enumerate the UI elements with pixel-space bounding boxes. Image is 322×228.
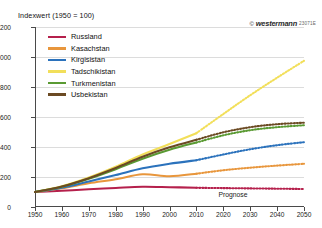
x-tick-label: 1960 [55, 211, 70, 218]
legend-color-swatch [48, 93, 66, 96]
series-line-forecast [196, 61, 304, 133]
legend-item-label: Kirgisistan [71, 55, 105, 64]
prognose-label: Prognose [218, 191, 247, 198]
x-tick-label: 1950 [28, 211, 43, 218]
y-tick-label: 400 [0, 144, 11, 151]
legend-color-swatch [48, 82, 66, 85]
y-tick-label: 800 [0, 84, 11, 91]
chart-figure: Indexwert (1950 = 100) © westermann 2307… [0, 0, 322, 228]
chart-axis-title: Indexwert (1950 = 100) [18, 11, 94, 20]
x-tick-label: 2050 [297, 211, 312, 218]
legend-item[interactable]: Turkmenistan [48, 77, 116, 89]
legend-item-label: Kasachstan [71, 44, 110, 53]
legend-item[interactable]: Kirgisistan [48, 54, 116, 66]
y-tick-label: 0 [7, 204, 11, 211]
y-tick-label: 600 [0, 114, 11, 121]
x-tick-label: 2020 [216, 211, 231, 218]
x-tick-label: 2030 [243, 211, 258, 218]
legend-item-label: Usbekistan [71, 90, 108, 99]
x-tick-label: 2040 [270, 211, 285, 218]
legend-item-label: Russland [71, 32, 102, 41]
x-tick-label: 2000 [162, 211, 177, 218]
legend-color-swatch [48, 59, 66, 62]
x-tick-label: 1990 [135, 211, 150, 218]
y-tick-label: 1000 [0, 54, 11, 61]
legend-color-swatch [48, 70, 66, 73]
series-line-forecast [196, 188, 304, 189]
legend-item[interactable]: Tadschikistan [48, 66, 116, 78]
copyright-icon: © [249, 21, 253, 27]
figure-code: 23071E [299, 21, 316, 26]
legend-color-swatch [48, 47, 66, 50]
legend-item[interactable]: Kasachstan [48, 43, 116, 55]
legend-color-swatch [48, 36, 66, 39]
series-line-forecast [196, 164, 304, 174]
series-line-forecast [196, 142, 304, 160]
legend-item-label: Turkmenistan [71, 79, 116, 88]
y-tick-label: 1200 [0, 24, 11, 31]
x-tick-label: 1980 [108, 211, 123, 218]
legend-item[interactable]: Usbekistan [48, 89, 116, 101]
x-tick-label: 1970 [81, 211, 96, 218]
legend-item-label: Tadschikistan [71, 67, 115, 76]
legend: RusslandKasachstanKirgisistanTadschikist… [48, 31, 116, 101]
legend-item[interactable]: Russland [48, 31, 116, 43]
x-tick-label: 2010 [189, 211, 204, 218]
y-tick-label: 200 [0, 174, 11, 181]
